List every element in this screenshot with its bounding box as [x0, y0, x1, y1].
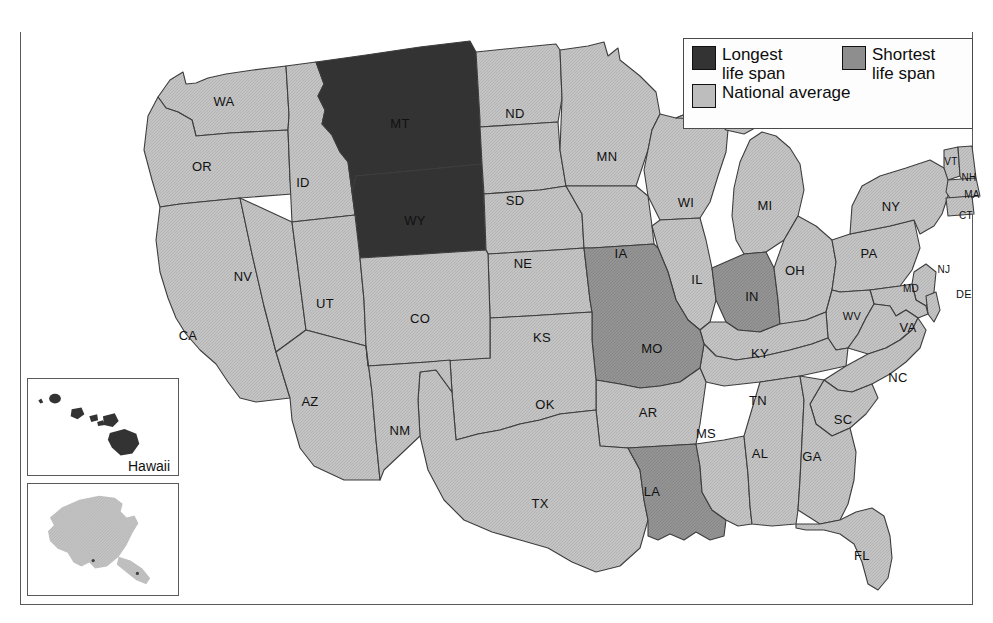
inset-alaska: [27, 483, 179, 596]
legend-item-longest: Longest life span: [692, 45, 842, 83]
legend-swatch-longest: [692, 46, 716, 70]
legend-item-shortest: Shortest life span: [842, 45, 935, 83]
alaska-mainland: [48, 496, 138, 569]
legend-label-shortest: Shortest life span: [872, 45, 935, 83]
legend-row-1: Longest life span Shortest life span: [692, 45, 964, 83]
hawaii-inset-label: Hawaii: [128, 458, 170, 474]
alaska-panhandle: [117, 557, 150, 585]
alaska-svg: [28, 484, 178, 595]
legend: Longest life span Shortest life span Nat…: [683, 38, 973, 129]
legend-label-average: National average: [722, 83, 851, 102]
legend-item-average: National average: [692, 83, 851, 108]
inset-hawaii: Hawaii: [27, 378, 179, 476]
map-figure: WA OR ID MT WY ND SD NE MN WI MI IA IL I…: [0, 0, 993, 623]
legend-swatch-average: [692, 84, 716, 108]
hawaii-islands: [38, 394, 139, 456]
alaska-dot-2: [136, 572, 139, 575]
legend-row-2: National average: [692, 83, 964, 108]
legend-label-longest: Longest life span: [722, 45, 785, 83]
alaska-dot-1: [92, 559, 95, 562]
legend-swatch-shortest: [842, 46, 866, 70]
